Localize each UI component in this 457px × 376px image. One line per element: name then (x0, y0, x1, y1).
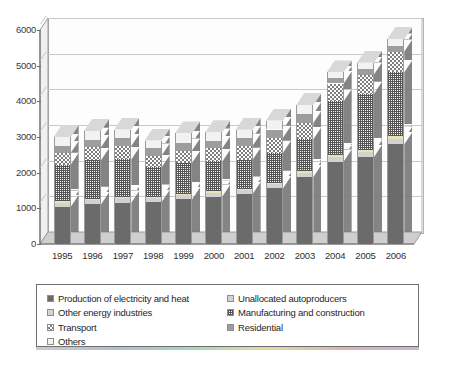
bar-column[interactable] (54, 0, 71, 272)
bar-segment (327, 157, 344, 161)
bar-segment (357, 157, 374, 244)
y-axis-tick-label: 4000 (2, 95, 36, 106)
y-axis-tick-mark (37, 66, 41, 67)
bar-segment (266, 188, 283, 244)
stacked-column-chart: 0100020003000400050006000 19951996199719… (0, 0, 457, 376)
legend-swatch-icon (47, 338, 54, 345)
legend-item-label: Transport (58, 322, 97, 333)
bar-column[interactable] (327, 0, 344, 272)
legend-item[interactable]: Production of electricity and heat (47, 291, 189, 305)
bar-segment (387, 144, 404, 244)
bar-segment (387, 52, 404, 73)
bar-column[interactable] (266, 0, 283, 272)
y-axis-tick-label: 5000 (2, 60, 36, 71)
bar-segment (296, 105, 313, 114)
bar-segment (357, 63, 374, 69)
bar-segment (205, 161, 222, 191)
bar-segment (205, 191, 222, 193)
chart-legend: Production of electricity and heatOther … (36, 284, 419, 347)
bar-segment (327, 155, 344, 157)
bar-segment (145, 167, 162, 196)
bar-column[interactable] (84, 0, 101, 272)
bar-segment (54, 153, 71, 165)
bar-segment (54, 207, 71, 244)
bar-segment (387, 139, 404, 144)
bar-segment (327, 72, 344, 78)
bar-segment (296, 173, 313, 177)
bar-segment (175, 163, 192, 194)
bar-segment (54, 137, 71, 146)
y-axis-tick-label: 0 (2, 238, 36, 249)
bar-segment (205, 148, 222, 161)
bar-segment (84, 147, 101, 160)
bar-column[interactable] (145, 0, 162, 272)
bar-segment (175, 143, 192, 150)
bar-segment (327, 84, 344, 102)
bar-segment (327, 101, 344, 155)
legend-item-label: Residential (238, 322, 283, 333)
legend-item-label: Manufacturing and construction (238, 307, 365, 318)
x-axis-tick-label: 2006 (378, 250, 414, 261)
bar-column[interactable] (296, 0, 313, 272)
y-axis-tick-label: 1000 (2, 202, 36, 213)
bar-segment (175, 199, 192, 244)
bar-segment (84, 131, 101, 140)
bar-segment (266, 153, 283, 183)
bar-column[interactable] (205, 0, 222, 272)
bar-segment (387, 72, 404, 136)
bar-segment (387, 39, 404, 45)
bar-segment-side (374, 145, 382, 232)
bar-segment (357, 69, 374, 75)
legend-swatch-icon (47, 295, 54, 302)
legend-item[interactable]: Unallocated autoproducers (227, 291, 365, 305)
legend-item-label: Other energy industries (58, 307, 152, 318)
y-axis-tick-mark (37, 244, 41, 245)
bar-segment (114, 130, 131, 139)
bar-column[interactable] (114, 0, 131, 272)
legend-item[interactable]: Manufacturing and construction (227, 306, 365, 320)
legend-swatch-icon (47, 309, 54, 316)
bar-segment (387, 46, 404, 52)
bar-segment (145, 198, 162, 202)
y-axis-tick-mark (37, 101, 41, 102)
bar-segment (236, 160, 253, 189)
bar-segment (357, 94, 374, 150)
bar-segment (266, 183, 283, 185)
bar-segment (205, 193, 222, 197)
bar-segment (54, 203, 71, 207)
bar-column[interactable] (236, 0, 253, 272)
bar-segment (327, 162, 344, 244)
bar-segment (236, 190, 253, 194)
legend-item[interactable]: Transport (47, 320, 189, 334)
bar-segment (84, 140, 101, 147)
bar-segment (114, 198, 131, 202)
legend-item-label: Production of electricity and heat (58, 293, 189, 304)
bar-segment (114, 146, 131, 160)
bar-column[interactable] (387, 0, 404, 272)
bar-column[interactable] (175, 0, 192, 272)
legend-item[interactable]: Residential (227, 320, 365, 334)
legend-swatch-icon (227, 324, 234, 331)
y-axis-tick-mark (37, 137, 41, 138)
bar-segment (296, 139, 313, 171)
bar-segment (266, 121, 283, 130)
legend-item-label: Unallocated autoproducers (238, 293, 347, 304)
y-axis-tick-label: 6000 (2, 24, 36, 35)
bar-segment (175, 133, 192, 143)
bar-segment (296, 123, 313, 139)
legend-column-left: Production of electricity and heatOther … (47, 291, 189, 349)
legend-sheen (36, 347, 419, 350)
bar-segment (54, 146, 71, 153)
legend-column-right: Unallocated autoproducersManufacturing a… (227, 291, 365, 335)
bar-segment (175, 195, 192, 199)
y-axis-tick-mark (37, 173, 41, 174)
bar-segment (236, 194, 253, 244)
bar-segment (236, 189, 253, 191)
bar-segment (145, 148, 162, 155)
bar-segment (296, 177, 313, 244)
bar-segment-side (404, 132, 412, 232)
bar-column[interactable] (357, 0, 374, 272)
bar-segment (205, 197, 222, 244)
legend-item[interactable]: Other energy industries (47, 306, 189, 320)
bar-segment (327, 78, 344, 83)
